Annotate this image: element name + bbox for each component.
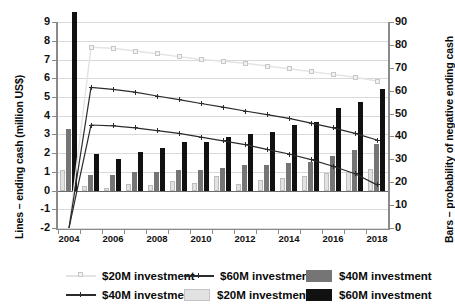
- data-point-marker: [309, 69, 314, 74]
- y-axis-left-tick-label: 6: [30, 71, 50, 83]
- legend-row-2: $40M investment $20M investment $60M inv…: [0, 285, 446, 304]
- legend-key-line-dark-cross: [66, 288, 96, 301]
- tick-mark: [390, 45, 394, 46]
- data-point-marker: [287, 66, 292, 71]
- x-axis-tick-label: 2018: [357, 233, 397, 244]
- data-point-marker: [199, 57, 204, 62]
- gridline: [58, 228, 388, 229]
- line-series-group: [58, 22, 388, 228]
- tick-mark: [52, 172, 56, 173]
- y-axis-left-tick-label: 5: [30, 90, 50, 102]
- x-axis-tick-label: 2008: [137, 233, 177, 244]
- data-point-marker: [375, 182, 380, 187]
- y-axis-right-tick-label: 30: [395, 152, 417, 164]
- chart-legend: $20M investment $60M investment $40M inv…: [0, 266, 446, 304]
- legend-item-bar-40m: $40M investment: [306, 270, 432, 282]
- y-axis-left-title: Lines – ending cash (million US$): [13, 75, 25, 239]
- y-axis-right-tick-label: 40: [395, 129, 417, 141]
- tick-mark: [390, 22, 394, 23]
- legend-label: $20M investment: [102, 270, 195, 282]
- legend-key-line-dark-cross: [184, 269, 214, 282]
- plot-area: [58, 22, 388, 228]
- y-axis-left-tick-label: -1: [30, 202, 50, 214]
- y-axis-left-tick-label: 8: [30, 34, 50, 46]
- tick-mark: [390, 114, 394, 115]
- data-point-marker: [155, 51, 160, 56]
- legend-item-bar-60m: $60M investment: [306, 289, 432, 301]
- tick-mark: [256, 230, 257, 234]
- data-point-marker: [309, 121, 314, 126]
- legend-label: $20M investment: [217, 289, 310, 301]
- tick-mark: [52, 209, 56, 210]
- data-point-marker: [89, 123, 94, 128]
- y-axis-left-tick-label: 7: [30, 53, 50, 65]
- line-paths: [58, 22, 388, 228]
- legend-swatch-gray: [306, 270, 332, 282]
- x-axis-tick-label: 2006: [93, 233, 133, 244]
- legend-row-1: $20M investment $60M investment $40M inv…: [0, 266, 446, 285]
- tick-mark: [52, 41, 56, 42]
- data-point-marker: [353, 131, 358, 136]
- legend-item-bar-20m: $20M investment: [184, 289, 306, 301]
- tick-mark: [300, 230, 301, 234]
- x-axis-tick-label: 2012: [225, 233, 265, 244]
- data-point-marker: [221, 105, 226, 110]
- data-point-marker: [265, 112, 270, 117]
- legend-item-line-60m: $60M investment: [184, 269, 306, 282]
- data-point-marker: [199, 135, 204, 140]
- tick-mark: [52, 60, 56, 61]
- tick-mark: [52, 153, 56, 154]
- data-point-marker: [309, 157, 314, 162]
- data-point-marker: [353, 75, 358, 80]
- tick-mark: [80, 230, 81, 234]
- y-axis-left-tick-label: -2: [30, 221, 50, 233]
- y-axis-right-line: [388, 22, 390, 228]
- data-point-marker: [265, 147, 270, 152]
- tick-mark: [124, 230, 125, 234]
- data-point-marker: [221, 138, 226, 143]
- data-point-marker: [331, 125, 336, 130]
- tick-mark: [390, 68, 394, 69]
- tick-mark: [390, 205, 394, 206]
- y-axis-right-tick-label: 20: [395, 175, 417, 187]
- tick-mark: [52, 22, 56, 23]
- data-point-marker: [243, 109, 248, 114]
- data-point-marker: [221, 59, 226, 64]
- tick-mark: [52, 97, 56, 98]
- legend-key-line-light-square: [66, 269, 96, 282]
- y-axis-right-tick-label: 90: [395, 15, 417, 27]
- data-point-marker: [111, 87, 116, 92]
- tick-mark: [52, 228, 56, 229]
- data-point-marker: [155, 128, 160, 133]
- tick-mark: [390, 228, 394, 229]
- data-point-marker: [155, 94, 160, 99]
- legend-swatch-light: [184, 289, 210, 301]
- data-point-marker: [265, 64, 270, 69]
- tick-mark: [52, 191, 56, 192]
- data-point-marker: [111, 46, 116, 51]
- y-axis-left-tick-label: 9: [30, 15, 50, 27]
- data-point-marker: [353, 171, 358, 176]
- legend-label: $60M investment: [220, 270, 313, 282]
- y-axis-right-tick-label: 80: [395, 38, 417, 50]
- x-axis-tick-label: 2016: [313, 233, 353, 244]
- tick-mark: [212, 230, 213, 234]
- y-axis-left-tick-label: 1: [30, 165, 50, 177]
- tick-mark: [390, 136, 394, 137]
- legend-item-line-20m: $20M investment: [66, 269, 184, 282]
- data-point-marker: [133, 125, 138, 130]
- data-point-marker: [331, 164, 336, 169]
- legend-label: $40M investment: [102, 289, 195, 301]
- data-point-marker: [243, 61, 248, 66]
- data-point-marker: [177, 97, 182, 102]
- y-axis-left-tick-label: 4: [30, 109, 50, 121]
- y-axis-left-tick-label: 0: [30, 184, 50, 196]
- tick-mark: [52, 134, 56, 135]
- data-point-marker: [243, 142, 248, 147]
- tick-mark: [168, 230, 169, 234]
- y-axis-right-tick-label: 0: [395, 221, 417, 233]
- y-axis-right-tick-label: 10: [395, 198, 417, 210]
- x-axis-tick-label: 2014: [269, 233, 309, 244]
- tick-mark: [52, 78, 56, 79]
- y-axis-right-tick-label: 60: [395, 84, 417, 96]
